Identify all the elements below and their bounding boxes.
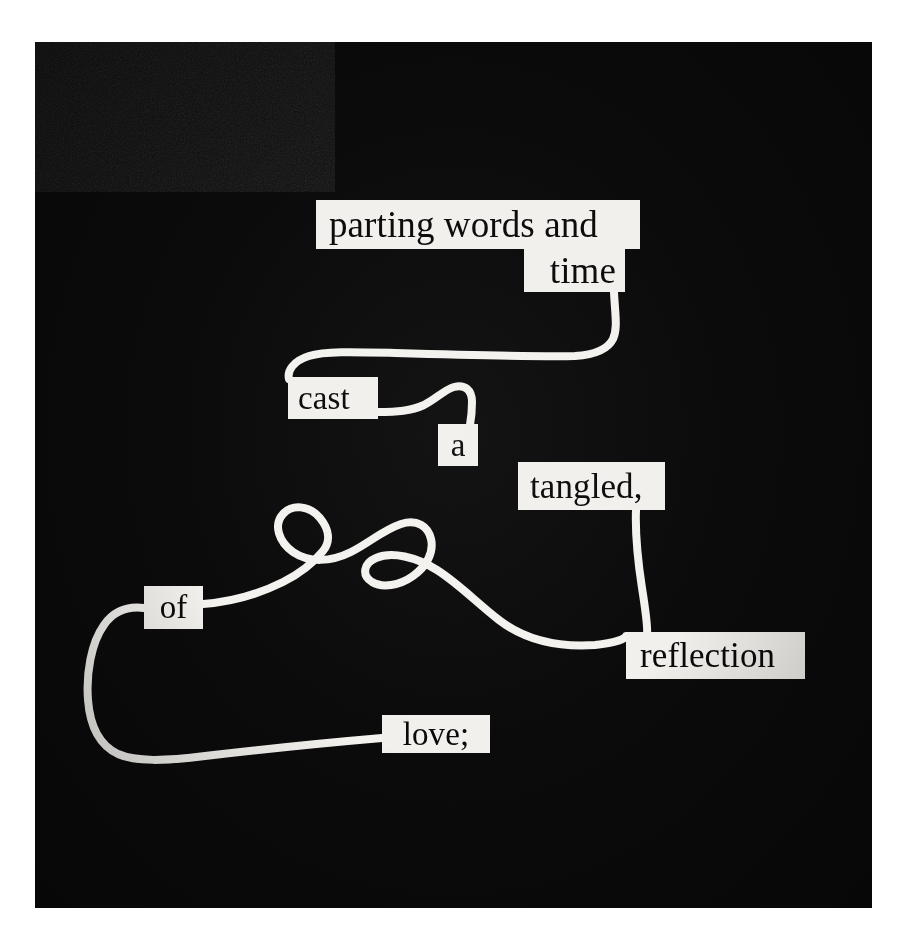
cord-segment-time-to-cast <box>289 292 616 379</box>
string-cord <box>35 42 872 908</box>
word-chip-a: a <box>438 424 478 466</box>
cord-segment-cast-to-a <box>378 386 472 425</box>
cord-segment-of-to-love <box>88 608 382 760</box>
word-chip-time: time <box>524 248 625 292</box>
word-chip-parting-words-and: parting words and <box>316 200 640 249</box>
word-chip-love: love; <box>382 715 490 753</box>
cord-segment-tangled-to-reflection <box>636 510 647 634</box>
artwork-root: parting words and time cast a tangled, r… <box>0 0 902 931</box>
black-panel: parting words and time cast a tangled, r… <box>35 42 872 908</box>
cord-segment-tangle-run <box>203 507 626 645</box>
word-chip-reflection: reflection <box>626 632 805 679</box>
collage-stage: parting words and time cast a tangled, r… <box>35 42 872 908</box>
word-chip-cast: cast <box>288 377 378 419</box>
word-chip-of: of <box>144 586 203 629</box>
word-chip-tangled: tangled, <box>518 462 665 510</box>
